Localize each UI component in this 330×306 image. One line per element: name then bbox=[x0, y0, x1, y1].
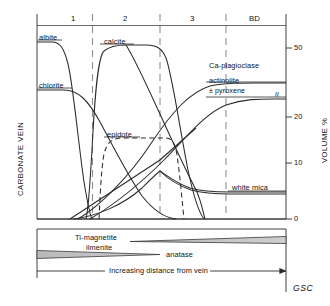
ytick-label-0: 0 bbox=[294, 214, 298, 223]
wedge-ti-magnetite-ilmenite bbox=[130, 237, 286, 244]
wedge-label-anatase: anatase bbox=[166, 250, 193, 259]
ytick-label-50: 50 bbox=[294, 43, 302, 52]
axis-break-icon: ≈ bbox=[272, 92, 282, 97]
distance-arrow-label: Increasing distance from vein bbox=[109, 266, 208, 275]
zone-label-3: 3 bbox=[190, 14, 194, 23]
curve-label-albite: albite bbox=[39, 33, 57, 42]
curve-label-epidote: epidote bbox=[107, 130, 132, 139]
ytick-label-20: 20 bbox=[294, 112, 302, 121]
curve-calcite bbox=[86, 45, 204, 219]
curve-label-white-mica: white mica bbox=[232, 183, 268, 192]
zone-label-bd: BD bbox=[249, 14, 260, 23]
curve-label-pyroxene: ± pyroxene bbox=[209, 87, 245, 95]
gsc-credit: GSC bbox=[293, 283, 313, 293]
figure-root: 1 2 3 BD albite chlorite calcite epidote… bbox=[0, 0, 330, 306]
curve-albite bbox=[37, 42, 92, 219]
curve-label-calcite: calcite bbox=[104, 37, 126, 46]
wedge-label-ti-magnetite: Ti-magnetite bbox=[75, 233, 117, 242]
curve-label-ca-plagioclase: Ca-plagioclase bbox=[209, 61, 259, 70]
y-axis-ticks bbox=[286, 48, 292, 219]
curve-chlorite bbox=[37, 90, 176, 219]
curve-rising-secondary bbox=[70, 128, 196, 219]
ytick-label-10: 10 bbox=[294, 158, 302, 167]
figure-canvas bbox=[0, 0, 330, 306]
curve-ca-plagioclase bbox=[78, 83, 286, 219]
zone-label-2: 2 bbox=[123, 14, 127, 23]
curve-label-actinolite: actinolite bbox=[209, 76, 239, 85]
curve-label-chlorite: chlorite bbox=[39, 81, 64, 90]
left-axis-label: CARBONATE VEIN bbox=[16, 122, 25, 196]
zone-label-1: 1 bbox=[71, 14, 75, 23]
right-axis-label: VOLUME % bbox=[320, 118, 329, 163]
wedge-label-ilmenite: ilmenite bbox=[86, 243, 112, 252]
